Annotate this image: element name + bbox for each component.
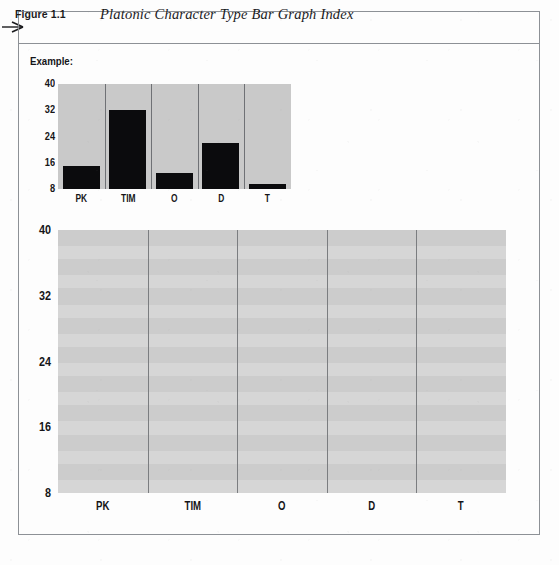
y-axis-tick-label: 32 [31, 103, 55, 115]
plot-band [58, 405, 506, 421]
bar-PK [63, 166, 100, 189]
y-axis-tick-label: 8 [24, 485, 51, 500]
category-divider [198, 84, 199, 189]
x-axis-tick-label: D [336, 499, 408, 513]
bar-D [202, 143, 239, 189]
y-axis-tick-label: 8 [31, 182, 55, 194]
category-divider [416, 230, 417, 493]
plot-band [58, 318, 506, 334]
x-axis-tick-label: PK [67, 499, 139, 513]
category-divider [105, 84, 106, 189]
bar-T [249, 184, 286, 189]
y-axis-tick-label: 32 [24, 288, 51, 303]
x-axis-tick-label: T [249, 192, 286, 204]
plot-band [58, 259, 506, 275]
x-axis-tick-label: TIM [109, 192, 146, 204]
bar-O [156, 173, 193, 189]
x-axis-tick-label: T [425, 499, 497, 513]
plot-band [58, 288, 506, 304]
figure-title: Platonic Character Type Bar Graph Index [100, 6, 354, 23]
y-axis-tick-label: 24 [31, 130, 55, 142]
main-bar-chart[interactable]: 403224168PKTIMODT [25, 225, 525, 525]
plot-band [58, 376, 506, 392]
example-caption: Example: [30, 55, 73, 67]
plot-band [58, 230, 506, 246]
x-axis-tick-label: PK [63, 192, 100, 204]
y-axis-tick-label: 16 [31, 156, 55, 168]
plot-band [58, 464, 506, 480]
y-axis-tick-label: 24 [24, 354, 51, 369]
example-bar-chart: 403224168PKTIMODT [31, 78, 293, 208]
main-plot-area[interactable] [58, 230, 506, 493]
y-axis-tick-label: 16 [24, 419, 51, 434]
category-divider [237, 230, 238, 493]
example-plot-area [58, 84, 291, 189]
y-axis-tick-label: 40 [24, 222, 51, 237]
plot-band [58, 435, 506, 451]
category-divider [148, 230, 149, 493]
x-axis-tick-label: TIM [157, 499, 229, 513]
category-divider [244, 84, 245, 189]
category-divider [151, 84, 152, 189]
x-axis-tick-label: O [246, 499, 318, 513]
x-axis-tick-label: O [156, 192, 193, 204]
x-axis-tick-label: D [202, 192, 239, 204]
bar-TIM [109, 110, 146, 189]
y-axis-tick-label: 40 [31, 77, 55, 89]
plot-band [58, 347, 506, 363]
category-divider [327, 230, 328, 493]
figure-number-label: Figure 1.1 [15, 8, 66, 20]
